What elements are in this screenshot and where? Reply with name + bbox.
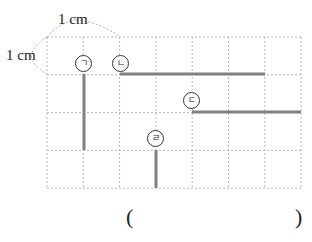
answer-open-paren: ( [126, 206, 133, 228]
answer-close-paren: ) [295, 206, 302, 228]
scale-label-horizontal: 1 cm [58, 12, 88, 27]
line-segment-figure: 1 cm 1 cm ㄱ ㄴ ㄷ ㄹ [0, 0, 312, 242]
scale-label-vertical: 1 cm [6, 48, 36, 63]
marker-rieul: ㄹ [147, 130, 164, 147]
marker-digeut: ㄷ [183, 92, 200, 109]
marker-giyeok: ㄱ [75, 55, 92, 72]
grid [0, 0, 312, 242]
marker-nieun: ㄴ [112, 55, 129, 72]
